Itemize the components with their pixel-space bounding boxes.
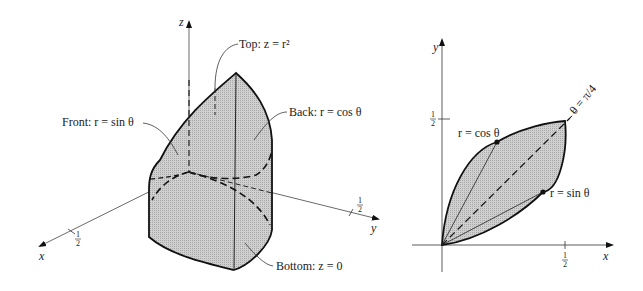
y-tick-label-2d: 1 2: [430, 110, 436, 128]
point-sin: [540, 189, 545, 194]
x-tick-label: 1 2: [75, 230, 81, 248]
x-axis-label-2d: x: [602, 249, 609, 263]
svg-text:1: 1: [563, 251, 567, 260]
svg-text:1: 1: [431, 110, 435, 119]
point-cos: [494, 139, 499, 144]
label-front: Front: r = sin θ: [62, 115, 134, 129]
svg-text:2: 2: [76, 239, 80, 248]
polar-region-figure: y x 1 2 1 2 r = cos θ r = sin θ θ = π/4: [412, 40, 612, 272]
svg-text:1: 1: [76, 230, 80, 239]
x-axis-label: x: [38, 249, 45, 263]
label-top: Top: z = r²: [239, 37, 290, 51]
label-cos-curve: r = cos θ: [458, 126, 500, 140]
z-axis-label: z: [178, 15, 184, 29]
label-back: Back: r = cos θ: [289, 105, 362, 119]
solid-3d-figure: z x y 1 2 1 2 Top: z = r² Front: r = sin…: [38, 15, 378, 273]
svg-text:2: 2: [358, 205, 362, 214]
x-tick-label-2d: 1 2: [562, 251, 568, 269]
y-axis-label: y: [370, 221, 377, 235]
y-tick-label: 1 2: [357, 196, 363, 214]
solid-body: [149, 73, 272, 270]
svg-text:1: 1: [358, 196, 362, 205]
label-bottom: Bottom: z = 0: [276, 259, 342, 273]
label-sin-curve: r = sin θ: [550, 186, 590, 200]
svg-text:2: 2: [431, 119, 435, 128]
svg-text:2: 2: [563, 260, 567, 269]
diagram-canvas: z x y 1 2 1 2 Top: z = r² Front: r = sin…: [0, 0, 643, 291]
y-axis-label-2d: y: [432, 40, 439, 54]
label-diagonal: θ = π/4: [567, 82, 600, 117]
